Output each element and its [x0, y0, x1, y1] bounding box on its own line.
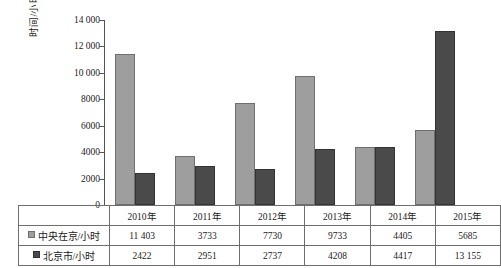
- table-cell-value: 2737: [240, 246, 305, 266]
- bar-series-container: [105, 20, 465, 205]
- bar-group: [225, 20, 285, 205]
- bar-central: [355, 147, 375, 205]
- table-cell-value: 13 155: [435, 246, 500, 266]
- bar-group: [105, 20, 165, 205]
- table-cell-value: 3733: [175, 226, 240, 246]
- table-cell-value: 4417: [370, 246, 435, 266]
- y-tick-label: 6000: [81, 121, 100, 131]
- y-tick-label: 10 000: [74, 68, 100, 78]
- y-tick-mark: [99, 179, 104, 180]
- table-header-year: 2015年: [435, 206, 500, 226]
- bar-central: [175, 156, 195, 205]
- legend-series-name: 中央在京/小时: [38, 231, 101, 242]
- bar-beijing: [195, 166, 215, 205]
- bar-central: [235, 103, 255, 205]
- table-row: 北京市/小时2422295127374208441713 155: [19, 246, 501, 266]
- y-tick-label: 14 000: [74, 15, 100, 25]
- table-header-year: 2013年: [305, 206, 370, 226]
- y-axis-title-text: 时间/小时: [26, 0, 40, 37]
- table-cell-value: 4405: [370, 226, 435, 246]
- bar-central: [115, 54, 135, 205]
- bar-group: [405, 20, 465, 205]
- bar-beijing: [255, 169, 275, 205]
- table-header-year: 2011年: [175, 206, 240, 226]
- bar-beijing: [135, 173, 155, 205]
- legend-series-name: 北京市/小时: [43, 251, 96, 262]
- legend-swatch-icon: [33, 251, 40, 258]
- table-header-year: 2010年: [110, 206, 175, 226]
- table-cell-value: 11 403: [110, 226, 175, 246]
- y-tick-label: 4000: [81, 147, 100, 157]
- table-cell-value: 2951: [175, 246, 240, 266]
- legend-row-label: 中央在京/小时: [19, 226, 110, 246]
- legend-swatch-icon: [28, 231, 35, 238]
- bar-central: [295, 76, 315, 205]
- bar-beijing: [435, 31, 455, 205]
- table-corner-blank: [19, 206, 110, 226]
- table-header-year: 2014年: [370, 206, 435, 226]
- table-cell-value: 4208: [305, 246, 370, 266]
- data-table-body: 2010年2011年2012年2013年2014年2015年中央在京/小时11 …: [19, 206, 501, 266]
- plot-area: 时间/小时 0200040006000800010 00012 00014 00…: [0, 0, 474, 208]
- table-row: 中央在京/小时11 40337337730973344055685: [19, 226, 501, 246]
- table-cell-value: 2422: [110, 246, 175, 266]
- bar-group: [165, 20, 225, 205]
- bar-group: [285, 20, 345, 205]
- bar-beijing: [375, 147, 395, 205]
- y-axis-tick-labels: 0200040006000800010 00012 00014 000: [44, 0, 100, 208]
- y-tick-label: 12 000: [74, 41, 100, 51]
- data-table-wrap: 2010年2011年2012年2013年2014年2015年中央在京/小时11 …: [18, 205, 465, 266]
- table-cell-value: 9733: [305, 226, 370, 246]
- table-header-year: 2012年: [240, 206, 305, 226]
- legend-row-label: 北京市/小时: [19, 246, 110, 266]
- y-tick-mark: [99, 73, 104, 74]
- y-tick-label: 8000: [81, 94, 100, 104]
- y-tick-mark: [99, 46, 104, 47]
- y-tick-mark: [99, 99, 104, 100]
- bar-central: [415, 130, 435, 205]
- bar-beijing: [315, 149, 335, 205]
- table-cell-value: 7730: [240, 226, 305, 246]
- y-tick-mark: [99, 20, 104, 21]
- table-cell-value: 5685: [435, 226, 500, 246]
- y-tick-label: 2000: [81, 174, 100, 184]
- y-tick-mark: [99, 126, 104, 127]
- table-row-years: 2010年2011年2012年2013年2014年2015年: [19, 206, 501, 226]
- y-axis-title: 时间/小时: [26, 0, 40, 60]
- bar-group: [345, 20, 405, 205]
- y-tick-mark: [99, 152, 104, 153]
- data-table: 2010年2011年2012年2013年2014年2015年中央在京/小时11 …: [18, 205, 501, 266]
